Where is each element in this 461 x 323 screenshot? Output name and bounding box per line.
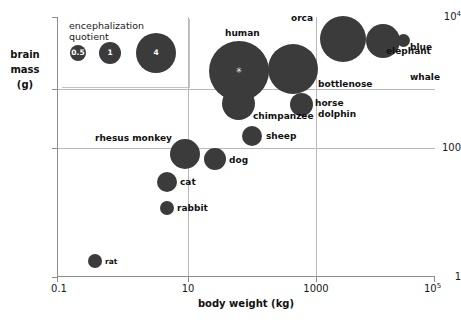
ytick-label-1: 1 — [413, 271, 461, 282]
bubble-dog[interactable] — [204, 148, 226, 170]
label-chimpanzee: chimpanzee — [253, 111, 314, 121]
bubble-orca[interactable] — [320, 16, 366, 62]
legend-bubble-0.5: 0.5 — [70, 45, 86, 61]
label-human: human — [225, 28, 260, 38]
legend-bubble-4: 4 — [136, 33, 176, 73]
ytick-mark-100 — [52, 148, 57, 149]
label-orca: orca — [291, 13, 313, 23]
xtick-label-1000: 1000 — [300, 283, 332, 294]
y-axis-title: brain mass (g) — [0, 47, 50, 92]
y-axis-title-line-3: (g) — [0, 77, 50, 92]
bubble-rabbit[interactable] — [160, 201, 174, 215]
label-bottlenose-dolphin-line-1: bottlenose — [318, 79, 372, 89]
xtick-label-0.1: 0.1 — [48, 283, 70, 294]
legend-bubble-label-0.5: 0.5 — [71, 49, 84, 57]
label-cat: cat — [180, 177, 196, 187]
legend-bubble-label-1: 1 — [107, 49, 112, 57]
label-rat: rat — [105, 257, 117, 267]
ytick-label-10e4: 104 — [413, 11, 461, 22]
label-horse: horse — [315, 98, 344, 108]
bubble-chart-figure: 104 100 1 0.1 10 1000 105 brain mass (g)… — [0, 0, 461, 323]
bubble-bottlenose-dolphin[interactable] — [268, 44, 318, 94]
ytick-label-100: 100 — [413, 142, 461, 153]
xtick-label-10: 10 — [177, 283, 199, 294]
label-bottlenose-dolphin-line-2: dolphin — [318, 109, 372, 119]
label-elephant: elephant — [386, 46, 431, 56]
bubble-cat[interactable] — [157, 172, 177, 192]
bubble-sheep[interactable] — [242, 126, 262, 146]
legend-bubble-label-4: 4 — [153, 49, 158, 57]
bubble-chimpanzee[interactable] — [222, 87, 255, 120]
legend-title-line-1: encephalization — [69, 21, 189, 32]
x-axis-title: body weight (kg) — [57, 298, 435, 309]
ytick-mark-10e4 — [52, 17, 57, 18]
y-axis-title-line-1: brain — [0, 47, 50, 62]
label-sheep: sheep — [266, 131, 296, 141]
y-axis-title-line-2: mass — [0, 62, 50, 77]
label-rhesus-monkey: rhesus monkey — [95, 133, 172, 143]
label-blue-whale: blue whale — [410, 22, 440, 102]
label-rabbit: rabbit — [177, 203, 208, 213]
xtick-mark-1000 — [316, 277, 317, 282]
label-blue-whale-line-2: whale — [410, 72, 440, 82]
xtick-label-10e5: 105 — [424, 283, 450, 294]
xtick-mark-0.1 — [57, 277, 58, 282]
xtick-mark-10 — [188, 277, 189, 282]
human-center-marker: ✳ — [236, 67, 243, 75]
bubble-rat[interactable] — [88, 254, 102, 268]
label-dog: dog — [229, 155, 248, 165]
xtick-mark-10e5 — [434, 277, 435, 282]
bubble-rhesus-monkey[interactable] — [170, 139, 200, 169]
legend-bubble-1: 1 — [99, 42, 121, 64]
ytick-mark-mid — [52, 89, 57, 90]
